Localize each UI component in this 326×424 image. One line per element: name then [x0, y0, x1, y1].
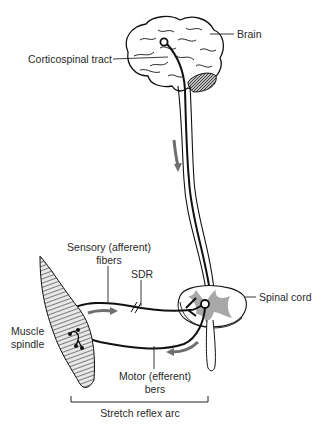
- label-corticospinal-tract: Corticospinal tract: [28, 53, 112, 65]
- stretch-reflex-arc-bracket: [71, 396, 208, 402]
- motor-neuron-body: [201, 300, 209, 308]
- descending-arrow-icon: [174, 140, 178, 166]
- label-brain: Brain: [237, 28, 262, 40]
- label-motor-fibers-line1: Motor (efferent): [110, 370, 200, 382]
- spinal-cord-tube: [178, 86, 214, 290]
- label-muscle-spindle-line1: Muscle: [11, 325, 44, 337]
- afferent-arrow-icon: [88, 310, 112, 313]
- label-spinal-cord: Spinal cord: [259, 291, 312, 303]
- upper-motor-neuron-body: [160, 38, 167, 45]
- label-stretch-reflex-arc: Stretch reflex arc: [80, 407, 200, 419]
- label-sensory-fibers-line2: fibers: [58, 254, 160, 266]
- label-muscle-spindle-line2: spindle: [11, 338, 44, 350]
- label-motor-fibers-line2: bers: [110, 383, 200, 395]
- muscle-illustration: [40, 256, 94, 387]
- ventral-root: [206, 320, 215, 371]
- stretch-reflex-diagram: Brain Corticospinal tract Sensory (affer…: [0, 0, 326, 424]
- label-sdr: SDR: [131, 268, 153, 280]
- label-sensory-fibers-line1: Sensory (afferent): [58, 241, 160, 253]
